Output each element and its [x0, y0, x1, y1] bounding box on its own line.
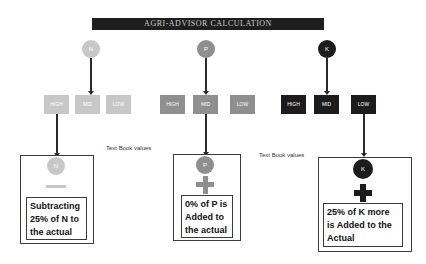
p-circle-icon: P: [197, 40, 215, 58]
k-circle-label: K: [325, 46, 329, 52]
p-result-circle-icon: P: [196, 156, 214, 174]
n-circle-label: N: [89, 46, 93, 52]
n-circle-icon: N: [82, 40, 100, 58]
n-level-low: LOW: [106, 95, 131, 114]
k-connector-line: [326, 58, 328, 92]
k-level-high: HIGH: [281, 95, 306, 114]
k-result-circle-icon: K: [353, 159, 373, 179]
n-result-connector: [56, 114, 58, 154]
textbook-values-label-2: Text Book values: [259, 152, 304, 158]
p-connector-line: [205, 58, 207, 92]
p-result-text: 0% of P is Added to the actual: [181, 195, 233, 238]
p-result-circle-label: P: [203, 162, 207, 168]
p-circle-label: P: [204, 46, 208, 52]
textbook-values-label-1: Text Book values: [106, 145, 151, 151]
plus-icon-k: [354, 184, 372, 202]
k-result-text: 25% of K more is Added to the Actual: [323, 203, 403, 247]
minus-icon: [46, 185, 66, 188]
k-level-low: LOW: [351, 95, 376, 114]
n-result-text: Subtracting 25% of N to the actual: [26, 197, 87, 240]
k-result-circle-label: K: [361, 166, 365, 172]
n-result-circle-icon: N: [47, 157, 65, 175]
n-result-circle-label: N: [54, 163, 58, 169]
n-level-mid: MID: [75, 95, 100, 114]
k-circle-icon: K: [318, 40, 336, 58]
plus-icon-p: [196, 176, 214, 194]
p-result-connector: [205, 114, 207, 153]
p-level-low: LOW: [230, 95, 255, 114]
p-level-mid: MID: [193, 95, 218, 114]
diagram-title: AGRI-ADVISOR CALCULATION: [92, 18, 324, 30]
n-level-high: HIGH: [44, 95, 69, 114]
n-connector-line: [90, 58, 92, 92]
k-result-connector: [363, 114, 365, 154]
k-level-mid: MID: [314, 95, 339, 114]
p-level-high: HIGH: [160, 95, 185, 114]
